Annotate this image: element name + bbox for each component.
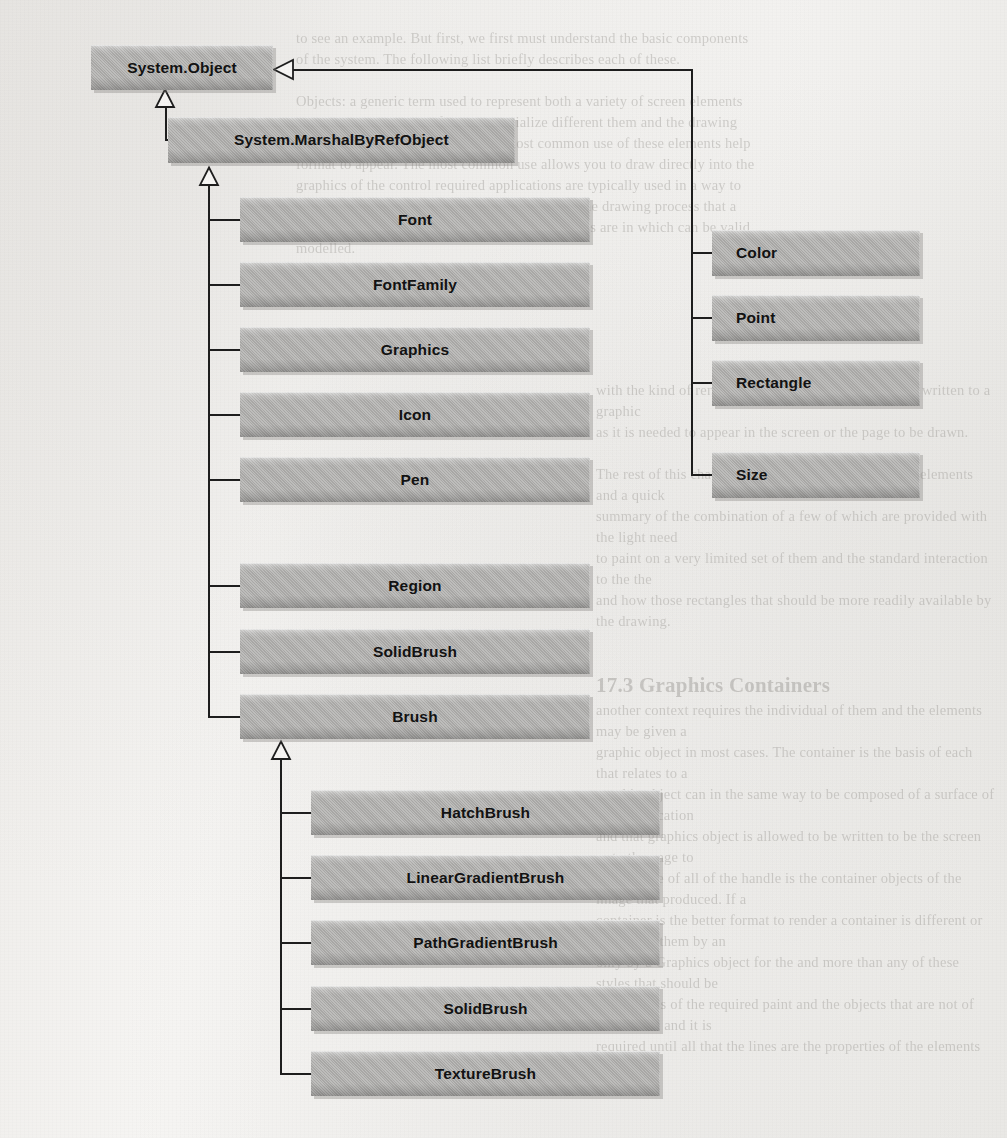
class-label: System.MarshalByRefObject bbox=[234, 131, 449, 149]
class-label: Color bbox=[736, 244, 777, 262]
class-box-system-object[interactable]: System.Object bbox=[91, 45, 273, 90]
connector-stub-size bbox=[691, 474, 713, 476]
class-box-point[interactable]: Point bbox=[712, 295, 920, 341]
arrowhead-to-marshalbyrefobject-up bbox=[197, 166, 221, 188]
arrowhead-to-system-object-left bbox=[273, 58, 297, 82]
connector-stub-point bbox=[691, 317, 713, 319]
class-label: SolidBrush bbox=[373, 643, 457, 661]
class-label: FontFamily bbox=[373, 276, 457, 294]
connector-stub-pathgradientbrush bbox=[280, 942, 312, 944]
class-box-brush[interactable]: Brush bbox=[240, 694, 590, 739]
class-label: Pen bbox=[401, 471, 430, 489]
arrowhead-to-system-object-up bbox=[153, 88, 177, 110]
class-label: Size bbox=[736, 466, 768, 484]
class-box-icon[interactable]: Icon bbox=[240, 392, 590, 437]
connector-stub-icon bbox=[208, 414, 240, 416]
class-box-pathgradientbrush[interactable]: PathGradientBrush bbox=[311, 920, 660, 965]
connector-stub-solidbrush bbox=[208, 651, 240, 653]
connector-stub-graphics bbox=[208, 349, 240, 351]
class-label: TextureBrush bbox=[435, 1065, 536, 1083]
class-box-solidbrush[interactable]: SolidBrush bbox=[240, 629, 590, 674]
bleed-through-middle-right: with the kind of rendering and how it is… bbox=[596, 380, 992, 632]
connector-right-column-trunk bbox=[691, 69, 693, 475]
class-box-hatchbrush[interactable]: HatchBrush bbox=[311, 790, 660, 835]
class-box-graphics[interactable]: Graphics bbox=[240, 327, 590, 372]
class-box-lineargradientbrush[interactable]: LinearGradientBrush bbox=[311, 855, 660, 900]
class-box-system-marshalbyrefobject[interactable]: System.MarshalByRefObject bbox=[168, 117, 515, 163]
class-label: Graphics bbox=[381, 341, 449, 359]
class-label: System.Object bbox=[127, 59, 237, 77]
class-label: LinearGradientBrush bbox=[407, 869, 565, 887]
class-label: SolidBrush bbox=[443, 1000, 527, 1018]
class-box-size[interactable]: Size bbox=[712, 452, 920, 498]
class-label: Icon bbox=[399, 406, 431, 424]
class-label: Brush bbox=[392, 708, 438, 726]
class-box-rectangle[interactable]: Rectangle bbox=[712, 360, 920, 406]
connector-stub-texturebrush bbox=[280, 1073, 312, 1075]
connector-stub-pen bbox=[208, 479, 240, 481]
class-box-region[interactable]: Region bbox=[240, 563, 590, 608]
class-box-texturebrush[interactable]: TextureBrush bbox=[311, 1051, 660, 1096]
arrowhead-to-brush-up bbox=[269, 740, 293, 762]
class-label: Font bbox=[398, 211, 432, 229]
class-box-color[interactable]: Color bbox=[712, 230, 920, 276]
class-box-font[interactable]: Font bbox=[240, 197, 590, 242]
class-label: Point bbox=[736, 309, 776, 327]
connector-stub-fontfamily bbox=[208, 284, 240, 286]
connector-stub-rectangle bbox=[691, 382, 713, 384]
connector-object-to-right-column bbox=[292, 69, 692, 71]
class-box-fontfamily[interactable]: FontFamily bbox=[240, 262, 590, 307]
scanned-page: to see an example. But first, we first m… bbox=[0, 0, 1007, 1138]
class-label: PathGradientBrush bbox=[413, 934, 558, 952]
connector-stub-hatchbrush bbox=[280, 812, 312, 814]
connector-main-trunk bbox=[208, 183, 210, 717]
class-label: HatchBrush bbox=[441, 804, 530, 822]
class-box-pen[interactable]: Pen bbox=[240, 457, 590, 502]
class-label: Region bbox=[388, 577, 441, 595]
class-box-solidbrush-sub[interactable]: SolidBrush bbox=[311, 986, 660, 1031]
connector-brush-trunk bbox=[280, 757, 282, 1074]
connector-stub-region bbox=[208, 585, 240, 587]
connector-stub-lineargradientbrush bbox=[280, 877, 312, 879]
bleed-through-section-heading: 17.3 Graphics Containers bbox=[596, 672, 992, 698]
connector-stub-font bbox=[208, 219, 240, 221]
connector-stub-solidbrush-sub bbox=[280, 1008, 312, 1010]
connector-stub-color bbox=[691, 252, 713, 254]
class-label: Rectangle bbox=[736, 374, 811, 392]
connector-stub-brush bbox=[208, 716, 240, 718]
